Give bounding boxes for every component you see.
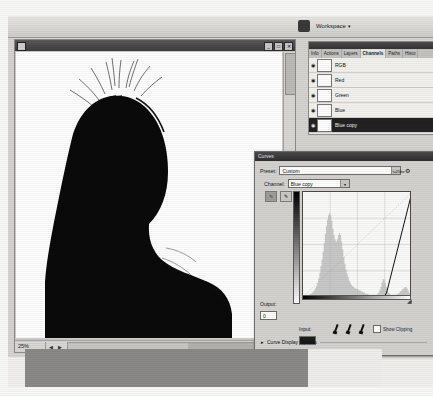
- options-bar: Workspace▾: [8, 17, 433, 38]
- photoshop-application-window: Workspace▾ _ □ ✕: [8, 16, 433, 357]
- eye-icon[interactable]: ◉: [309, 62, 317, 68]
- curves-dialog[interactable]: Curves Preset: Custom \u25be ⚙ Channel: …: [254, 151, 433, 356]
- channel-row-rgb[interactable]: ◉ RGB: [309, 58, 433, 73]
- tab-channels[interactable]: Channels: [361, 49, 387, 58]
- eye-icon[interactable]: ◉: [309, 77, 317, 83]
- paper-edge-bottom: [0, 387, 433, 396]
- eye-icon[interactable]: ◉: [309, 122, 317, 128]
- channel-label: Green: [335, 92, 349, 98]
- preset-value: Custom: [282, 168, 299, 174]
- document-system-icon[interactable]: [17, 42, 26, 51]
- channel-thumbnail: [317, 74, 332, 87]
- document-title-bar[interactable]: _ □ ✕: [15, 40, 295, 51]
- disclosure-triangle-icon[interactable]: ▸: [261, 339, 264, 345]
- pencil-draw-tool-icon[interactable]: ✎: [280, 191, 292, 202]
- preset-select[interactable]: Custom \u25be: [279, 166, 401, 175]
- tab-layers[interactable]: Layers: [342, 49, 361, 58]
- resize-grip-icon[interactable]: ◢: [407, 298, 413, 304]
- workspace-button[interactable]: Workspace▾: [316, 20, 351, 33]
- scrollbar-thumb[interactable]: [285, 53, 296, 95]
- channel-value: Blue copy: [291, 181, 313, 187]
- maximize-button[interactable]: □: [274, 42, 283, 51]
- black-point-eyedropper-icon[interactable]: [333, 324, 340, 334]
- curve-point-tool-icon[interactable]: ∿: [265, 191, 277, 202]
- photo-bottom-band: [25, 349, 308, 387]
- curve-display-options-row[interactable]: ▸ Curve Display Options: [261, 338, 427, 346]
- show-clipping-label: Show Clipping: [383, 327, 412, 332]
- silhouette-artwork: [16, 52, 282, 338]
- preset-row: Preset: Custom \u25be ⚙: [260, 166, 410, 175]
- tab-actions[interactable]: Actions: [322, 49, 342, 58]
- channel-row-green[interactable]: ◉ Green: [309, 88, 433, 103]
- channel-row-blue-copy[interactable]: ◉ Blue copy: [309, 118, 433, 133]
- eyedropper-group[interactable]: [333, 324, 366, 334]
- show-clipping-checkbox[interactable]: Show Clipping: [373, 325, 412, 333]
- preset-options-icon[interactable]: ⚙: [405, 167, 410, 174]
- minimize-button[interactable]: _: [264, 42, 273, 51]
- channel-thumbnail: [317, 104, 332, 117]
- eye-icon[interactable]: ◉: [309, 107, 317, 113]
- channel-row: Channel: Blue copy ▾: [264, 179, 350, 188]
- paper-edge-left: [0, 0, 8, 396]
- section-divider: [320, 342, 427, 343]
- chevron-down-icon: ▾: [348, 23, 351, 29]
- photo-bottom-band-right: [308, 349, 382, 387]
- image-canvas[interactable]: [16, 52, 282, 338]
- channel-label: RGB: [335, 62, 346, 68]
- curves-plot[interactable]: [302, 191, 411, 296]
- checkbox-icon[interactable]: [373, 325, 381, 333]
- output-field-group: Output: 0: [260, 292, 288, 320]
- channel-thumbnail: [317, 89, 332, 102]
- chevron-down-icon[interactable]: \u25be: [391, 167, 400, 174]
- tab-paths[interactable]: Paths: [386, 49, 403, 58]
- channel-label: Blue copy: [335, 122, 357, 128]
- channel-label: Blue: [335, 107, 345, 113]
- curves-plot-svg: [303, 192, 411, 296]
- tab-info[interactable]: Info: [309, 49, 322, 58]
- channel-thumbnail: [317, 59, 332, 72]
- workspace-label: Workspace: [316, 23, 346, 29]
- curves-dialog-title: Curves: [255, 152, 433, 161]
- photoshop-logo-icon: [298, 20, 310, 32]
- preset-label: Preset:: [260, 168, 276, 174]
- channel-label: Channel:: [264, 181, 285, 187]
- output-label: Output:: [260, 301, 276, 307]
- window-controls[interactable]: _ □ ✕: [264, 42, 293, 51]
- channel-row-red[interactable]: ◉ Red: [309, 73, 433, 88]
- output-input[interactable]: 0: [260, 311, 277, 320]
- channel-thumbnail: [317, 119, 332, 132]
- close-button[interactable]: ✕: [284, 42, 293, 51]
- curves-graph-area[interactable]: ◢: [293, 191, 411, 304]
- white-point-eyedropper-icon[interactable]: [359, 324, 366, 334]
- channel-row-blue[interactable]: ◉ Blue: [309, 103, 433, 118]
- paper-edge-top: [0, 0, 433, 16]
- palette-title-bar[interactable]: [309, 42, 433, 49]
- chevron-down-icon[interactable]: ▾: [340, 180, 349, 187]
- tab-histogram[interactable]: Histo: [403, 49, 418, 58]
- output-gradient-bar: [293, 191, 300, 304]
- curve-tool-group[interactable]: ∿ ✎: [265, 191, 292, 202]
- eye-icon[interactable]: ◉: [309, 92, 317, 98]
- channel-label: Red: [335, 77, 344, 83]
- channel-list[interactable]: ◉ RGB ◉ Red ◉ Green ◉ Blue ◉: [309, 58, 433, 134]
- gray-point-eyedropper-icon[interactable]: [346, 324, 353, 334]
- input-gradient-bar: [302, 295, 411, 300]
- channel-select[interactable]: Blue copy ▾: [288, 179, 350, 188]
- input-label: Input:: [299, 326, 312, 332]
- curve-display-options-label: Curve Display Options: [267, 339, 317, 345]
- channels-palette[interactable]: Info Actions Layers Channels Paths Histo…: [308, 41, 433, 135]
